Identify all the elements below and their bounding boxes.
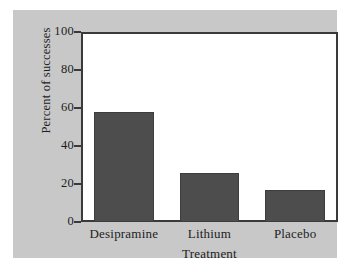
y-tick-mark: [74, 69, 81, 71]
bar-placebo[interactable]: [265, 190, 325, 222]
bar-desipramine[interactable]: [94, 112, 154, 222]
x-tick-label-lithium: Lithium: [167, 226, 253, 242]
bars-layer: [81, 32, 338, 222]
bar-lithium[interactable]: [180, 173, 240, 222]
x-axis-title: Treatment: [81, 246, 338, 262]
y-tick-mark: [74, 107, 81, 109]
y-tick-mark: [74, 145, 81, 147]
x-tick-label-desipramine: Desipramine: [81, 226, 167, 242]
chart-figure: 0 20 40 60 80 100 Percent of successes D…: [0, 0, 350, 271]
y-tick-mark: [74, 221, 81, 223]
y-tick-label: 20: [21, 177, 74, 190]
x-tick-label-placebo: Placebo: [252, 226, 338, 242]
y-tick-label: 0: [21, 215, 74, 228]
y-tick-mark: [74, 183, 81, 185]
y-axis-title: Percent of successes: [39, 6, 54, 156]
y-tick-mark: [74, 31, 81, 33]
figure-panel: 0 20 40 60 80 100 Percent of successes D…: [13, 10, 337, 258]
